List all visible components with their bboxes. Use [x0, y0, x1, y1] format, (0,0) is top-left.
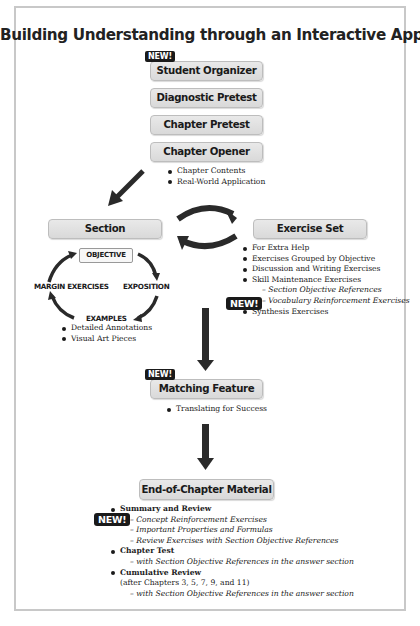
list-item: Translating for Success: [166, 404, 267, 415]
end-of-chapter-label: End-of-Chapter Material: [141, 484, 271, 495]
end-of-chapter-list: Summary and Review – Concept Reinforceme…: [110, 504, 354, 599]
end-of-chapter-box: End-of-Chapter Material: [139, 479, 274, 500]
cycle-arrows-icon: [177, 208, 237, 250]
exercise-set-label: Exercise Set: [277, 223, 343, 234]
list-item: Discussion and Writing Exercises: [242, 264, 410, 275]
list-item-summary: Summary and Review: [110, 504, 354, 515]
list-sub-item: – Section Objective References: [242, 285, 410, 296]
list-item: Visual Art Pieces: [61, 334, 152, 345]
list-sub-item: – with Section Objective References in t…: [110, 557, 354, 568]
list-item-chapter-test: Chapter Test: [110, 546, 354, 557]
objective-box: OBJECTIVE: [79, 248, 133, 263]
list-sub-item: – Review Exercises with Section Objectiv…: [110, 536, 354, 547]
list-sub-item: – with Section Objective References in t…: [110, 589, 354, 600]
arrow-down-left-icon: [108, 171, 143, 206]
new-badge-concept-reinforcement: NEW!: [94, 513, 130, 526]
matching-feature-box: Matching Feature: [150, 379, 263, 399]
new-badge-vocabulary: NEW!: [226, 297, 262, 310]
arrow-down-icon: [197, 308, 214, 371]
list-item-cumulative-review: Cumulative Review: [110, 568, 354, 579]
section-box: Section: [48, 219, 162, 239]
section-label: Section: [85, 223, 125, 234]
matching-feature-label: Matching Feature: [159, 383, 255, 394]
list-item: For Extra Help: [242, 243, 410, 254]
margin-exercises-label: MARGIN EXERCISES: [34, 282, 109, 291]
examples-label: EXAMPLES: [86, 314, 127, 323]
new-badge-matching-feature: NEW!: [145, 369, 175, 380]
list-sub-item: – Concept Reinforcement Exercises: [110, 515, 354, 526]
list-sub-item: – Vocabulary Reinforcement Exercises: [242, 296, 410, 307]
exposition-label: EXPOSITION: [123, 282, 169, 291]
arrow-down-icon: [197, 424, 214, 470]
exercise-set-box: Exercise Set: [253, 219, 367, 239]
section-list: Detailed Annotations Visual Art Pieces: [61, 323, 152, 344]
list-item: Detailed Annotations: [61, 323, 152, 334]
list-item: Exercises Grouped by Objective: [242, 254, 410, 265]
list-item: Skill Maintenance Exercises: [242, 275, 410, 286]
exercise-set-list: For Extra Help Exercises Grouped by Obje…: [242, 243, 410, 317]
objective-label: OBJECTIVE: [86, 251, 126, 259]
list-note: (after Chapters 3, 5, 7, 9, and 11): [110, 578, 354, 589]
list-sub-item: – Important Properties and Formulas: [110, 525, 354, 536]
matching-feature-list: Translating for Success: [166, 404, 267, 415]
list-item: Synthesis Exercises: [242, 307, 410, 318]
